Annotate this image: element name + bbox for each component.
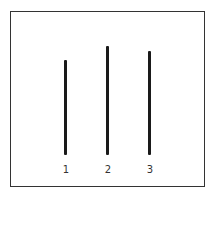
line-label-2: 2 [98,164,118,175]
comparison-line-2 [106,46,109,155]
line-label-1: 1 [56,164,76,175]
line-label-3: 3 [140,164,160,175]
comparison-line-1 [64,60,67,155]
comparison-line-3 [148,51,151,155]
